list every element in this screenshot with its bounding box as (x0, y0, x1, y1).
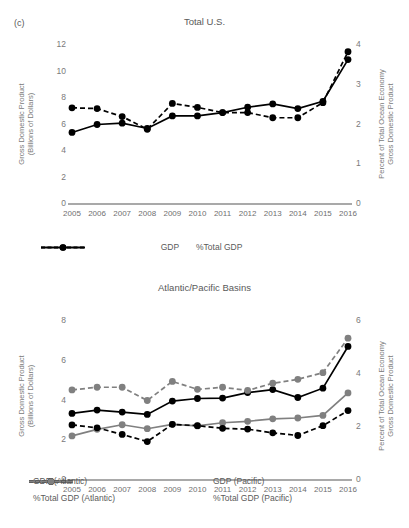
x-axis-tick: 2006 (83, 209, 111, 218)
x-axis-tick: 2011 (209, 209, 237, 218)
x-axis-tick: 2009 (158, 209, 186, 218)
legend-swatch (40, 242, 86, 253)
legend-item-gdp-pacific[interactable]: GDP (Pacific) (208, 476, 376, 486)
data-point (144, 397, 151, 404)
data-point (320, 385, 327, 392)
data-point (119, 384, 126, 391)
data-point (119, 431, 126, 438)
data-point (94, 384, 101, 391)
data-point (345, 407, 352, 414)
y-axis-right-tick: 2 (356, 421, 372, 431)
data-point (194, 386, 201, 393)
y-axis-left-title-a: Gross Domestic Product (Billions of Doll… (17, 64, 35, 184)
data-point (269, 415, 276, 422)
data-point (294, 432, 301, 439)
y-axis-left-tick: 6 (50, 355, 66, 365)
data-point (269, 386, 276, 393)
legend-item-total-gdp-pacific[interactable]: %Total GDP (Pacific) (208, 493, 376, 503)
data-point (119, 409, 126, 416)
series-line-gdp-pacific (72, 393, 348, 436)
y-axis-right-tick: 2 (356, 119, 372, 129)
y-axis-left-tick: 8 (50, 92, 66, 102)
data-point (219, 384, 226, 391)
legend-item-total-gdp[interactable]: %Total GDP (191, 242, 242, 252)
x-axis-tick: 2013 (259, 209, 287, 218)
legend-atlantic-pacific: GDP (Atlantic)GDP (Pacific)%Total GDP (A… (28, 476, 388, 510)
y-axis-left-tick: 4 (50, 395, 66, 405)
data-point (169, 398, 176, 405)
legend-row: GDP (Atlantic)GDP (Pacific) (28, 476, 388, 486)
data-point (144, 438, 151, 445)
y-axis-left-tick: 2 (50, 172, 66, 182)
plot-area-total-us: 0246810120123420052006200720082009201020… (46, 36, 376, 226)
y-axis-right-tick: 3 (356, 79, 372, 89)
data-point (69, 387, 76, 394)
y-axis-right-title-a-line1: Percent of Total Ocean Economy (377, 69, 386, 179)
series-line-gdp-atlantic (72, 346, 348, 414)
x-axis-tick: 2005 (58, 209, 86, 218)
y-axis-left-title-b-line2: (Billions of Dollars) (26, 365, 35, 428)
data-point (219, 109, 226, 116)
series-line-total-gdp (72, 52, 348, 130)
x-axis-tick: 2007 (108, 209, 136, 218)
data-point (69, 421, 76, 428)
data-point (244, 418, 251, 425)
y-axis-right-title-b-line2: Gross Domestic Product (386, 355, 395, 436)
x-axis-tick: 2012 (234, 209, 262, 218)
data-point (294, 394, 301, 401)
chart-svg-atlantic-pacific-basins (46, 312, 376, 502)
legend-label: %Total GDP (196, 242, 242, 252)
chart-title-atlantic-pacific: Atlantic/Pacific Basins (0, 282, 409, 293)
data-point (345, 390, 352, 397)
data-point (119, 120, 126, 127)
panel-total-us: (c) Total U.S. Gross Domestic Product (B… (0, 0, 409, 264)
y-axis-left-title-a-line1: Gross Domestic Product (17, 83, 26, 164)
data-point (244, 109, 251, 116)
data-point (269, 101, 276, 108)
y-axis-left-tick: 10 (50, 66, 66, 76)
data-point (269, 380, 276, 387)
y-axis-right-tick: 0 (356, 198, 372, 208)
data-point (320, 412, 327, 419)
data-point (94, 424, 101, 431)
y-axis-left-tick: 2 (50, 434, 66, 444)
series-line-gdp (72, 60, 348, 133)
y-axis-left-tick: 12 (50, 39, 66, 49)
legend-swatch (28, 476, 74, 487)
legend-item-gdp[interactable]: GDP (156, 242, 179, 252)
y-axis-right-tick: 6 (356, 315, 372, 325)
data-point (144, 411, 151, 418)
data-point (194, 112, 201, 119)
data-point (169, 421, 176, 428)
y-axis-left-tick: 0 (50, 198, 66, 208)
data-point (294, 415, 301, 422)
data-point (94, 407, 101, 414)
data-point (169, 100, 176, 107)
data-point (345, 48, 352, 55)
data-point (194, 395, 201, 402)
data-point (294, 114, 301, 121)
legend-total-us: GDP%Total GDP (40, 242, 370, 259)
data-point (119, 113, 126, 120)
y-axis-right-title-a-line2: Gross Domestic Product (386, 83, 395, 164)
y-axis-left-tick: 4 (50, 145, 66, 155)
data-point (69, 129, 76, 136)
data-point (320, 99, 327, 106)
chart-title-total-us: Total U.S. (0, 16, 409, 27)
data-point (269, 429, 276, 436)
x-axis-tick: 2008 (133, 209, 161, 218)
y-axis-left-title-a-line2: (Billions of Dollars) (26, 93, 35, 156)
data-point (94, 121, 101, 128)
legend-label: GDP (161, 242, 179, 252)
data-point (269, 114, 276, 121)
plot-area-atlantic-pacific: 0246802462005200620072008200920102011201… (46, 312, 376, 502)
legend-item-total-gdp-atlantic[interactable]: %Total GDP (Atlantic) (28, 493, 196, 503)
data-point (69, 432, 76, 439)
legend-label: %Total GDP (Pacific) (213, 493, 292, 503)
y-axis-right-tick: 1 (356, 158, 372, 168)
y-axis-left-title-b: Gross Domestic Product (Billions of Doll… (17, 336, 35, 456)
legend-label: GDP (Pacific) (213, 476, 264, 486)
data-point (345, 335, 352, 342)
data-point (169, 112, 176, 119)
data-point (144, 126, 151, 133)
